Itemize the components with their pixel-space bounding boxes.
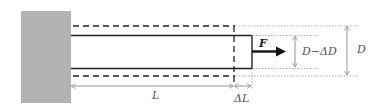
deformed-bar xyxy=(71,36,252,69)
reduced-diameter-label: D−ΔD xyxy=(301,45,337,58)
diameter-label: D xyxy=(356,43,366,56)
wall xyxy=(21,11,71,103)
dimension-extension-lines xyxy=(236,26,358,90)
bar-tension-diagram: F D−ΔD D L ΔL xyxy=(0,0,381,107)
force-label: F xyxy=(258,37,268,50)
original-bar-outline xyxy=(73,26,235,84)
force-arrow xyxy=(252,47,286,57)
length-label: L xyxy=(151,89,159,102)
elongation-label: ΔL xyxy=(233,92,249,105)
